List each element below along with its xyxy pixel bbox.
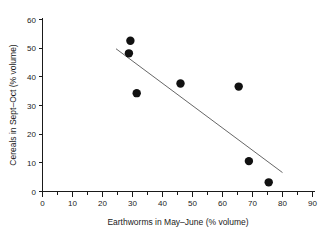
data-point <box>125 49 133 57</box>
data-point <box>235 82 243 90</box>
y-tick-label: 50 <box>27 44 36 53</box>
plot-canvas: 0102030405060 0102030405060708090 Earthw… <box>0 0 322 234</box>
y-tick-label: 0 <box>32 188 37 197</box>
x-tick-label: 10 <box>68 199 77 208</box>
x-axis-title: Earthworms in May–June (% volume) <box>107 217 248 227</box>
x-tick-label: 60 <box>218 199 227 208</box>
x-tick-label: 80 <box>278 199 287 208</box>
data-point <box>265 178 273 186</box>
x-tick-label: 30 <box>128 199 137 208</box>
x-tick-label: 50 <box>188 199 197 208</box>
y-tick-label: 20 <box>27 130 36 139</box>
regression-line <box>116 49 283 173</box>
y-tick-label: 60 <box>27 16 36 25</box>
x-axis-tick-labels: 0102030405060708090 <box>40 199 317 208</box>
y-axis-ticks <box>39 20 43 192</box>
x-tick-label: 70 <box>248 199 257 208</box>
x-tick-label: 20 <box>98 199 107 208</box>
data-point <box>176 79 184 87</box>
x-tick-label: 40 <box>158 199 167 208</box>
y-tick-label: 40 <box>27 73 36 82</box>
y-axis-title: Cereals in Sept–Oct (% volume) <box>8 44 18 166</box>
x-tick-label: 90 <box>308 199 317 208</box>
y-tick-label: 30 <box>27 102 36 111</box>
data-point-group <box>125 37 273 187</box>
y-tick-label: 10 <box>27 159 36 168</box>
data-point <box>126 37 134 45</box>
y-axis-tick-labels: 0102030405060 <box>27 16 36 197</box>
regression-line-group <box>116 49 283 173</box>
data-point <box>245 157 253 165</box>
data-point <box>133 89 141 97</box>
x-tick-label: 0 <box>40 199 45 208</box>
scatter-plot-figure: 0102030405060 0102030405060708090 Earthw… <box>0 0 322 234</box>
